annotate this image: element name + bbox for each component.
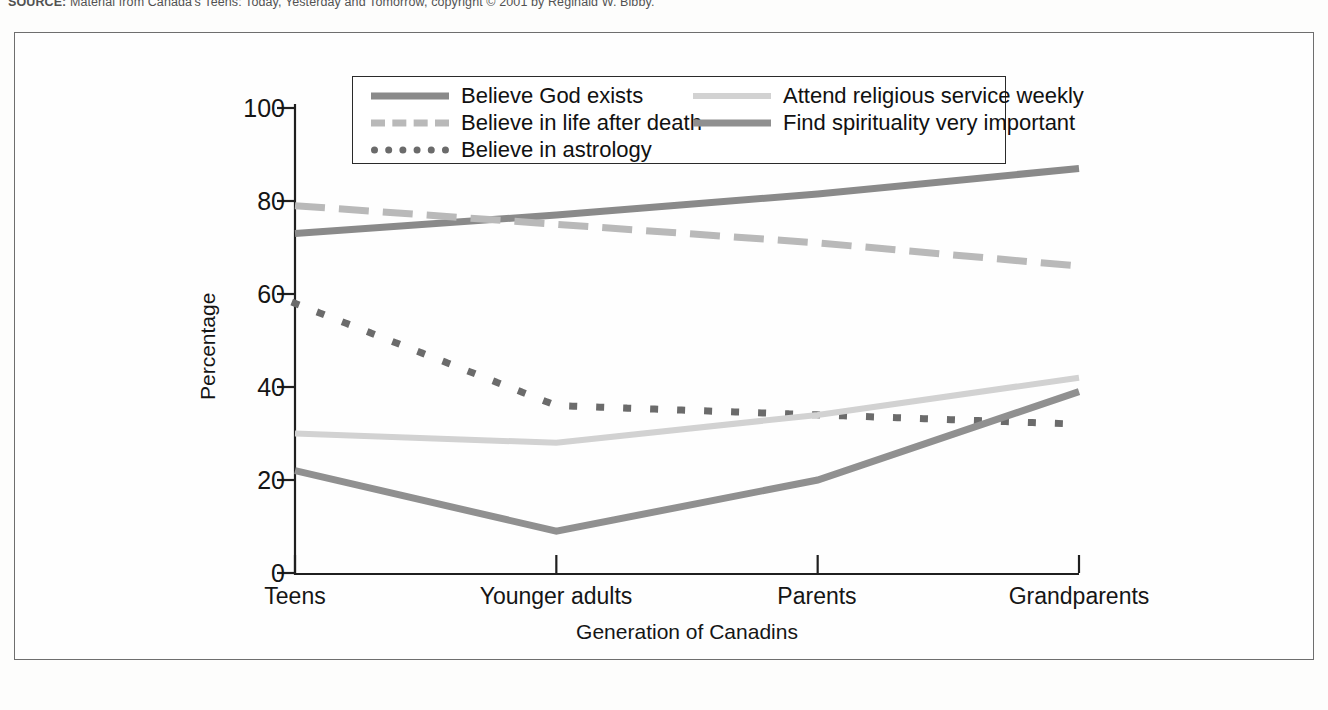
figure-page: SOURCE: Material from Canada's Teens: To… bbox=[0, 0, 1328, 710]
x-tick-label-younger-adults: Younger adults bbox=[461, 583, 651, 610]
source-credit-line: SOURCE: Material from Canada's Teens: To… bbox=[8, 0, 1318, 10]
legend-swatch-believe-god-exists bbox=[371, 87, 449, 105]
legend-swatch-attend-religious-service-weekly bbox=[693, 87, 771, 105]
y-axis-title: Percentage bbox=[196, 293, 220, 400]
legend-label-find-spirituality-very-important: Find spirituality very important bbox=[783, 112, 1075, 134]
legend-swatch-find-spirituality-very-important bbox=[693, 114, 771, 132]
legend-item-attend-religious-service-weekly[interactable]: Attend religious service weekly bbox=[693, 83, 1084, 109]
y-tick-label-40: 40 bbox=[225, 373, 285, 402]
x-tick-label-grandparents: Grandparents bbox=[989, 583, 1169, 610]
legend-swatch-believe-life-after-death bbox=[371, 114, 449, 132]
legend-item-believe-life-after-death[interactable]: Believe in life after death bbox=[371, 110, 702, 136]
chart-legend: Believe God exists Believe in life after… bbox=[352, 76, 1006, 164]
legend-label-believe-astrology: Believe in astrology bbox=[461, 139, 652, 161]
legend-label-believe-life-after-death: Believe in life after death bbox=[461, 112, 702, 134]
legend-label-believe-god-exists: Believe God exists bbox=[461, 85, 643, 107]
legend-swatch-believe-astrology bbox=[371, 141, 449, 159]
source-credit-prefix: SOURCE: bbox=[8, 0, 66, 9]
source-credit-text: Material from Canada's Teens: Today, Yes… bbox=[70, 0, 655, 9]
y-tick-label-80: 80 bbox=[225, 187, 285, 216]
legend-label-attend-religious-service-weekly: Attend religious service weekly bbox=[783, 85, 1084, 107]
x-tick-label-teens: Teens bbox=[230, 583, 360, 610]
y-tick-label-100: 100 bbox=[225, 94, 285, 123]
y-tick-label-60: 60 bbox=[225, 280, 285, 309]
x-tick-label-parents: Parents bbox=[752, 583, 882, 610]
legend-item-believe-astrology[interactable]: Believe in astrology bbox=[371, 137, 652, 163]
legend-item-find-spirituality-very-important[interactable]: Find spirituality very important bbox=[693, 110, 1075, 136]
y-tick-label-20: 20 bbox=[225, 466, 285, 495]
legend-item-believe-god-exists[interactable]: Believe God exists bbox=[371, 83, 643, 109]
x-axis-title: Generation of Canadins bbox=[487, 620, 887, 644]
